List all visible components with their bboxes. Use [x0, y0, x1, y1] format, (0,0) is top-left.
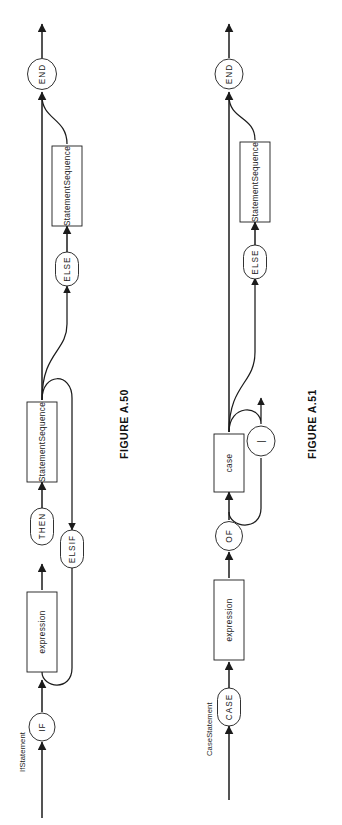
node-else-label-a51: ELSE — [251, 249, 260, 274]
node-end-label-a51: END — [225, 64, 234, 85]
node-expression-a51: expression — [214, 580, 244, 660]
node-of-a51: OF — [216, 522, 243, 551]
entry-label-a50: IfStatement — [18, 731, 27, 772]
node-end-a51: END — [215, 59, 243, 89]
node-expression-a50: expression — [27, 592, 57, 672]
figure-caption-a50: FIGURE A.50 — [118, 389, 130, 459]
node-seq1-label-a50: StatementSequence — [38, 402, 47, 482]
node-elsif-label-a50: ELSIF — [68, 535, 77, 563]
node-of-label-a51: OF — [225, 529, 234, 543]
edge-seq1-to-else — [42, 286, 67, 400]
node-seq1-a50: StatementSequence — [27, 402, 57, 482]
node-seq-a51: StatementSequence — [240, 142, 270, 222]
edge-case-to-else — [229, 278, 255, 432]
node-if-a50: IF — [29, 713, 55, 741]
node-case-label-a51: case — [225, 454, 234, 473]
node-else-label-a50: ELSE — [63, 256, 72, 281]
node-seq2-label-a50: StatementSequence — [63, 146, 72, 226]
node-casekw-label-a51: CASE — [225, 694, 234, 721]
node-bar-a51: | — [247, 426, 275, 456]
node-then-a50: THEN — [31, 508, 54, 545]
node-then-label-a50: THEN — [38, 513, 47, 540]
node-case-a51: case — [214, 434, 244, 492]
figure-a51: END StatementSequence ELSE | case OF — [171, 0, 342, 825]
node-seq2-a50: StatementSequence — [52, 146, 82, 226]
node-expression-label-a51: expression — [225, 598, 234, 641]
edge-seq-to-spine-a51 — [229, 96, 255, 140]
node-casekw-a51: CASE — [218, 688, 241, 726]
node-end-label-a50: END — [38, 64, 47, 85]
node-bar-label-a51: | — [257, 439, 266, 442]
edge-seq2-to-spine — [42, 96, 67, 144]
figure-caption-a51: FIGURE A.51 — [306, 389, 318, 459]
figure-page: END StatementSequence ELSE StatementSequ… — [0, 0, 342, 825]
node-if-label-a50: IF — [38, 722, 47, 731]
node-seq-label-a51: StatementSequence — [251, 142, 260, 222]
entry-label-a51: CaseStatement — [205, 702, 214, 756]
node-else-a51: ELSE — [244, 245, 267, 279]
node-else-a50: ELSE — [56, 252, 79, 286]
node-elsif-a50: ELSIF — [61, 530, 84, 568]
node-end-a50: END — [28, 59, 57, 90]
figure-a50: END StatementSequence ELSE StatementSequ… — [0, 0, 171, 825]
node-expression-label-a50: expression — [38, 610, 47, 653]
